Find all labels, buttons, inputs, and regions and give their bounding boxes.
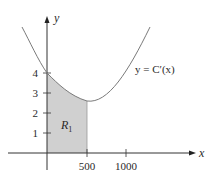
region-label-subscript: 1: [68, 125, 72, 134]
chart: 1 2 3 4 500 1000 y x y = C′(x) R1: [0, 0, 216, 181]
x-axis-label: x: [198, 146, 205, 160]
x-axis-arrow-icon: [189, 151, 196, 156]
y-tick-label-4: 4: [33, 67, 39, 79]
y-tick-label-1: 1: [33, 127, 39, 139]
y-axis-label: y: [53, 11, 60, 25]
y-axis-arrow-icon: [45, 16, 50, 23]
curve-label: y = C′(x): [135, 63, 175, 76]
shaded-region-r1: [47, 73, 87, 153]
y-tick-label-3: 3: [33, 87, 39, 99]
curve-c-prime: [22, 27, 150, 101]
y-tick-label-2: 2: [33, 107, 39, 119]
x-tick-label-500: 500: [79, 160, 96, 172]
x-tick-label-1000: 1000: [115, 160, 138, 172]
